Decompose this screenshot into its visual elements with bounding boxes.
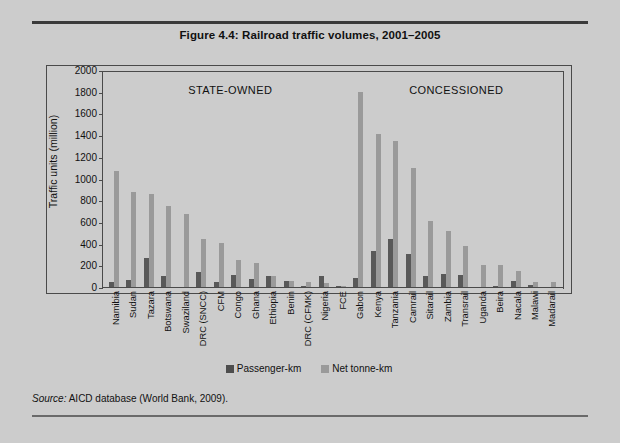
bar-group: Nigeria [319, 71, 333, 287]
x-axis-tick-label: Sudan [129, 291, 138, 318]
bar-net-tonne-km [306, 282, 311, 287]
bar-net-tonne-km [236, 260, 241, 287]
x-axis-tick-label: Madarail [548, 291, 557, 327]
x-axis-tick-label: Namibia [111, 291, 120, 325]
x-axis-tick-label: Camrail [408, 291, 417, 323]
x-axis-tick-label: Ethiopia [269, 291, 278, 325]
legend-net-tonne-km: Net tonne-km [321, 363, 392, 374]
legend-label: Passenger-km [237, 363, 301, 374]
bar-net-tonne-km [463, 246, 468, 287]
bar-group: Congo [231, 71, 245, 287]
x-axis-tick-label: Malawi [530, 291, 539, 320]
bar-net-tonne-km [341, 286, 346, 287]
x-axis-tick-label: Nigeria [321, 291, 330, 320]
bar-group: Gabon [353, 71, 367, 287]
bar-group: Camrail [406, 71, 420, 287]
source-note: Source: AICD database (World Bank, 2009)… [32, 393, 228, 404]
figure-page: Figure 4.4: Railroad traffic volumes, 20… [0, 0, 620, 443]
bar-group: Uganda [476, 71, 490, 287]
bar-net-tonne-km [376, 134, 381, 287]
bar-group: Botswana [161, 71, 175, 287]
bar-net-tonne-km [201, 239, 206, 287]
bar-group: Nacala [511, 71, 525, 287]
x-axis-tick-label: DRC (CFMK) [303, 291, 312, 346]
legend-label: Net tonne-km [332, 363, 392, 374]
bar-group: Swaziland [179, 71, 193, 287]
x-axis-tick-label: Gabon [356, 291, 365, 319]
bar-net-tonne-km [428, 221, 433, 287]
source-label: Source: [32, 393, 66, 404]
bar-net-tonne-km [114, 171, 119, 287]
x-axis-tick-label: Congo [234, 291, 243, 318]
y-tick-label: 1800 [47, 88, 103, 98]
y-tick-mark [99, 93, 103, 94]
bar-group: DRC (CFMK) [301, 71, 315, 287]
x-axis-tick-label: CFM [216, 291, 225, 311]
x-axis-tick-label: Uganda [478, 291, 487, 324]
y-tick-label: 1000 [47, 175, 103, 185]
bar-group: Zambia [441, 71, 455, 287]
bar-net-tonne-km [551, 282, 556, 287]
x-axis-tick-label: Tanzania [391, 291, 400, 328]
y-tick-mark [99, 201, 103, 202]
x-axis-tick-label: Benin [286, 291, 295, 315]
bar-net-tonne-km [516, 271, 521, 287]
y-tick-mark [99, 136, 103, 137]
x-axis-tick-label: Zambia [443, 291, 452, 322]
bar-group: Malawi [528, 71, 542, 287]
bar-group: Benin [284, 71, 298, 287]
bar-net-tonne-km [184, 214, 189, 287]
section-label-state-owned: STATE-OWNED [188, 84, 272, 96]
bar-group: Namibia [109, 71, 123, 287]
x-axis-tick-label: Swaziland [181, 291, 190, 333]
y-tick-label: 2000 [47, 66, 103, 76]
x-axis-tick-label: Transrail [461, 291, 470, 327]
x-axis-tick-label: Kenya [373, 291, 382, 317]
y-tick-label: 0 [47, 283, 103, 293]
bar-net-tonne-km [166, 206, 171, 287]
bar-group: Sudan [126, 71, 140, 287]
x-axis-tick-label: Ghana [251, 291, 260, 319]
bar-net-tonne-km [149, 194, 154, 287]
bar-group: Madarail [546, 71, 560, 287]
y-tick-mark [99, 245, 103, 246]
bar-group: Beira [493, 71, 507, 287]
bars-layer: NamibiaSudanTazaraBotswanaSwazilandDRC (… [103, 71, 564, 287]
bar-net-tonne-km [358, 92, 363, 287]
bar-net-tonne-km [271, 276, 276, 287]
x-axis-tick-label: FCE [338, 291, 347, 310]
legend-passenger-km: Passenger-km [226, 363, 301, 374]
top-divider [32, 21, 588, 24]
x-axis-tick-label: DRC (SNCC) [199, 291, 208, 346]
y-tick-label: 1400 [47, 131, 103, 141]
bar-group: FCE [336, 71, 350, 287]
plot-area: NamibiaSudanTazaraBotswanaSwazilandDRC (… [102, 71, 564, 288]
legend-swatch-icon [226, 365, 234, 373]
y-tick-mark [99, 223, 103, 224]
section-label-concessioned: CONCESSIONED [409, 84, 503, 96]
bar-net-tonne-km [324, 283, 329, 287]
bar-net-tonne-km [393, 141, 398, 287]
y-tick-mark [99, 158, 103, 159]
y-tick-mark [99, 71, 103, 72]
x-axis-tick-label: Beira [496, 291, 505, 313]
bar-group: CFM [214, 71, 228, 287]
y-tick-mark [99, 266, 103, 267]
bar-net-tonne-km [498, 265, 503, 287]
source-text: AICD database (World Bank, 2009). [66, 393, 228, 404]
bottom-divider [32, 415, 588, 417]
y-tick-label: 400 [47, 240, 103, 250]
bar-group: Ghana [249, 71, 263, 287]
bar-group: Ethiopia [266, 71, 280, 287]
x-axis-tick-label: Botswana [164, 291, 173, 332]
y-tick-mark [99, 114, 103, 115]
bar-group: Transrail [458, 71, 472, 287]
bar-net-tonne-km [446, 231, 451, 287]
bar-net-tonne-km [131, 192, 136, 287]
bar-net-tonne-km [219, 243, 224, 287]
bar-group: Tazara [144, 71, 158, 287]
figure-title: Figure 4.4: Railroad traffic volumes, 20… [32, 29, 588, 41]
x-axis-tick-label: Sitarail [426, 291, 435, 319]
bar-net-tonne-km [533, 282, 538, 287]
bar-net-tonne-km [289, 281, 294, 288]
